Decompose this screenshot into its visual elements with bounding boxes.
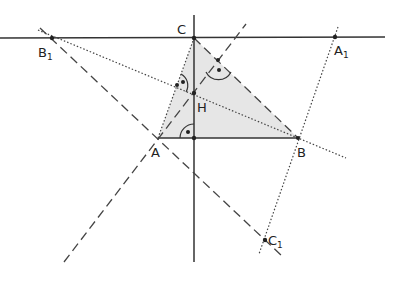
label-a: A bbox=[151, 145, 160, 160]
label-b: B bbox=[297, 145, 306, 160]
point-c bbox=[192, 36, 196, 40]
point-h bbox=[192, 91, 196, 95]
triangle-abc bbox=[158, 38, 298, 138]
point-foot-b bbox=[175, 83, 179, 87]
right-angle-dot bbox=[181, 80, 185, 84]
point-b1 bbox=[50, 36, 54, 40]
point-b bbox=[296, 136, 300, 140]
label-h: H bbox=[197, 100, 207, 115]
label-b1: B1 bbox=[38, 45, 53, 62]
right-angle-dot bbox=[186, 130, 190, 134]
label-c1: C1 bbox=[268, 233, 283, 250]
dotted-line-a1-c1 bbox=[259, 27, 338, 254]
dashed-line-b1-c1 bbox=[40, 28, 282, 256]
geometry-diagram: C H A B A1 B1 C1 bbox=[0, 0, 408, 291]
label-c: C bbox=[177, 22, 186, 37]
right-angle-dot bbox=[217, 68, 221, 72]
point-foot-c bbox=[192, 136, 196, 140]
point-c1 bbox=[263, 238, 267, 242]
label-a1: A1 bbox=[334, 43, 349, 60]
point-a1 bbox=[333, 35, 337, 39]
point-foot-a bbox=[216, 58, 220, 62]
